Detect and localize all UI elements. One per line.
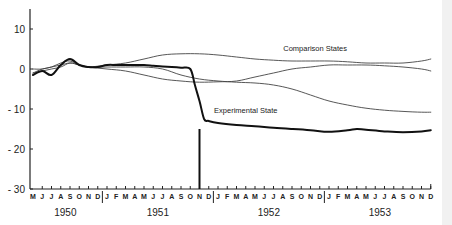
series-annotation: Experimental State <box>214 106 277 115</box>
month-label: M <box>252 193 258 200</box>
month-label: J <box>216 193 220 200</box>
y-tick-label: 10 <box>14 24 26 35</box>
month-label: D <box>206 193 211 200</box>
month-label: F <box>114 193 119 200</box>
month-label: J <box>272 193 276 200</box>
month-label: D <box>428 193 433 200</box>
month-label: N <box>86 193 91 200</box>
month-label: A <box>354 193 359 200</box>
month-label: A <box>169 193 174 200</box>
y-tick-label: - 10 <box>8 104 26 115</box>
month-label: A <box>280 193 285 200</box>
month-label: J <box>327 193 331 200</box>
series-lines <box>33 54 431 133</box>
annotations: Comparison StatesExperimental State <box>214 44 347 115</box>
month-label: M <box>234 193 240 200</box>
month-label: J <box>262 193 266 200</box>
comparison-state-line <box>33 63 431 112</box>
month-label: J <box>161 193 165 200</box>
month-label: M <box>141 193 147 200</box>
month-label: N <box>419 193 424 200</box>
month-label: A <box>243 193 248 200</box>
month-label: J <box>151 193 155 200</box>
month-label: O <box>188 193 194 200</box>
month-label: A <box>132 193 137 200</box>
line-chart: 100- 10- 20- 30MJJASONDJFMAMJJASONDJFMAM… <box>0 0 452 225</box>
year-label: 1952 <box>258 207 281 218</box>
month-label: M <box>363 193 369 200</box>
month-label: M <box>345 193 351 200</box>
month-label: S <box>179 193 184 200</box>
year-label: 1953 <box>369 207 392 218</box>
month-label: D <box>317 193 322 200</box>
month-label: J <box>383 193 387 200</box>
comparison-state-line <box>33 54 431 73</box>
year-label: 1951 <box>147 207 170 218</box>
month-label: S <box>68 193 73 200</box>
series-annotation: Comparison States <box>283 44 347 53</box>
y-tick-label: 0 <box>19 64 25 75</box>
month-label: J <box>105 193 109 200</box>
month-label: N <box>197 193 202 200</box>
month-label: O <box>299 193 305 200</box>
month-label: J <box>40 193 44 200</box>
y-tick-label: - 30 <box>8 184 26 195</box>
month-label: F <box>225 193 230 200</box>
month-label: F <box>336 193 341 200</box>
month-label: J <box>50 193 54 200</box>
month-label: S <box>290 193 295 200</box>
comparison-state-line <box>33 63 431 82</box>
month-label: N <box>308 193 313 200</box>
month-label: M <box>123 193 129 200</box>
month-label: M <box>30 193 36 200</box>
experimental-state-line <box>33 59 431 132</box>
month-label: O <box>77 193 83 200</box>
month-label: D <box>95 193 100 200</box>
y-tick-label: - 20 <box>8 144 26 155</box>
month-label: J <box>373 193 377 200</box>
month-label: A <box>391 193 396 200</box>
month-label: A <box>58 193 63 200</box>
year-label: 1950 <box>54 207 77 218</box>
month-label: S <box>401 193 406 200</box>
month-label: O <box>410 193 416 200</box>
